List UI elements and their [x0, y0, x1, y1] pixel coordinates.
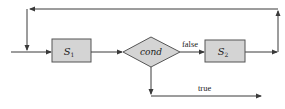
flowchart-diagram: S1 cond false S2 true — [0, 0, 285, 109]
node-s2: S2 — [205, 40, 245, 62]
false-edge: false — [180, 39, 204, 52]
true-label: true — [198, 83, 211, 93]
node-s1: S1 — [52, 39, 91, 62]
false-label: false — [182, 39, 198, 49]
true-edge: true — [151, 67, 261, 96]
node-cond: cond — [123, 37, 180, 67]
cond-label: cond — [140, 47, 162, 57]
